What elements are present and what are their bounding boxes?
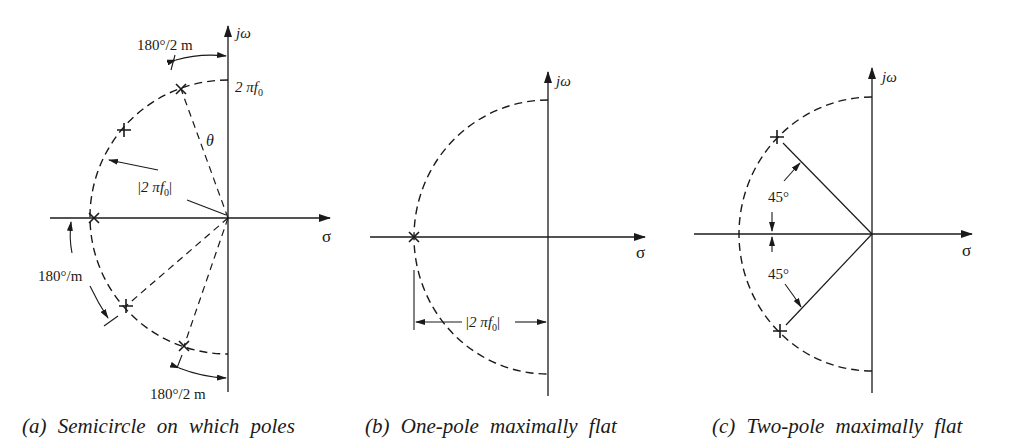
- radius-frequency-label: 2 πf0: [235, 79, 263, 98]
- pole-diagram-figure: jω σ 180°/2 m 2 πf0 θ |2 πf0| 180°/m 180…: [0, 0, 1015, 442]
- magnitude-label: |2 πf0|: [137, 179, 172, 198]
- panel-c-labels: jω σ 45° 45°: [768, 69, 971, 282]
- imag-axis-label: jω: [234, 25, 251, 41]
- panel-c: [694, 68, 972, 393]
- panel-a: [50, 26, 330, 392]
- pole-marker: [770, 130, 784, 144]
- real-axis-label: σ: [636, 243, 645, 262]
- caption-panel-a: (a) Semicircle on which poles: [22, 414, 295, 439]
- pole-semicircle: [90, 80, 228, 354]
- theta-label: θ: [206, 132, 214, 149]
- caption-panel-b: (b) One-pole maximally flat: [365, 414, 617, 439]
- mid-angle-label: 180°/m: [38, 268, 83, 284]
- imag-axis-label: jω: [554, 73, 571, 89]
- top-angle-label: 180°/2 m: [137, 37, 193, 53]
- caption-panel-c: (c) Two-pole maximally flat: [712, 414, 962, 439]
- pole-radius: [783, 143, 872, 234]
- upper-angle-label: 45°: [768, 189, 789, 205]
- radius-line: [181, 89, 228, 218]
- lower-angle-label: 45°: [768, 266, 789, 282]
- magnitude-label: |2 πf0|: [465, 314, 500, 333]
- imag-axis-label: jω: [880, 69, 897, 85]
- bottom-angle-label: 180°/2 m: [150, 386, 206, 402]
- radius-line: [126, 218, 228, 306]
- real-axis-label: σ: [322, 227, 331, 246]
- panel-b: [370, 72, 645, 396]
- pole-marker: [773, 324, 787, 338]
- real-axis-label: σ: [962, 241, 971, 260]
- pole-radius: [786, 234, 872, 325]
